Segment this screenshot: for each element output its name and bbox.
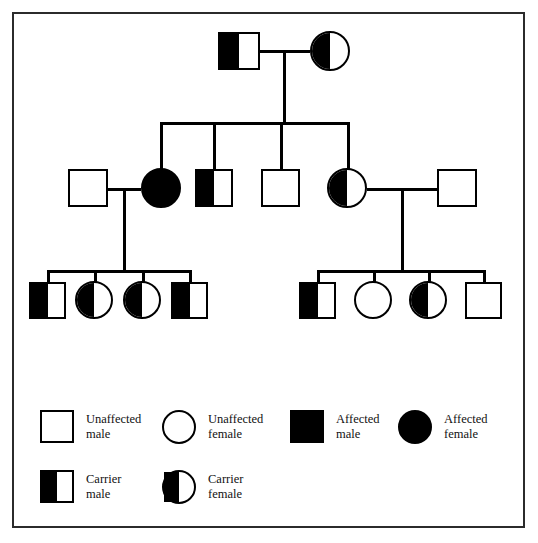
half-fill <box>42 472 57 501</box>
legend-label-carrier-male: Carrier male <box>86 472 121 502</box>
legend-item-affected-female: Affected female <box>398 410 488 444</box>
legend-swatch-unaffected-female <box>162 410 196 444</box>
legend-item-unaffected-male: Unaffected male <box>40 410 141 443</box>
legend-swatch-carrier-male <box>40 470 74 503</box>
legend: Unaffected male Unaffected female Affect… <box>0 0 538 543</box>
legend-swatch-carrier-female <box>162 470 196 504</box>
legend-label-affected-male: Affected male <box>336 412 380 442</box>
legend-swatch-affected-male <box>290 410 324 443</box>
legend-swatch-affected-female <box>398 410 432 444</box>
legend-item-carrier-female: Carrier female <box>162 470 243 504</box>
pedigree-figure: Unaffected male Unaffected female Affect… <box>0 0 538 543</box>
legend-swatch-unaffected-male <box>40 410 74 443</box>
legend-item-carrier-male: Carrier male <box>40 470 121 503</box>
legend-label-unaffected-male: Unaffected male <box>86 412 141 442</box>
legend-label-affected-female: Affected female <box>444 412 488 442</box>
legend-label-unaffected-female: Unaffected female <box>208 412 263 442</box>
legend-item-affected-male: Affected male <box>290 410 380 443</box>
legend-label-carrier-female: Carrier female <box>208 472 243 502</box>
legend-item-unaffected-female: Unaffected female <box>162 410 263 444</box>
half-fill <box>164 472 179 502</box>
